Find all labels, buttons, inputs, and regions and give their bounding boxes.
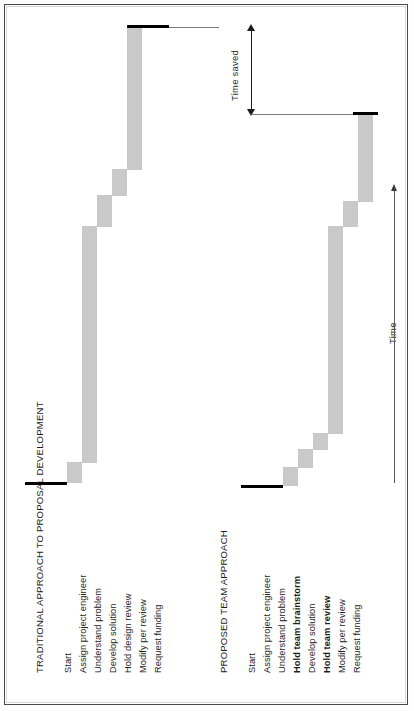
chart1-task-label-start: Start <box>64 653 73 673</box>
chart2-bar-modify-per-review <box>358 115 373 202</box>
chart1-task-label-develop-solution: Develop solution <box>109 603 118 673</box>
chart2-task-label-hold-team-brainstorm: Hold team brainstorm <box>293 576 302 673</box>
time-axis-label: Time <box>388 322 397 344</box>
chart2-task-label-hold-team-review: Hold team review <box>323 596 332 673</box>
time-axis-arrow-head <box>391 184 397 191</box>
chart2-bar-assign-engineer <box>283 467 298 486</box>
chart2-bar-develop-solution <box>328 226 343 434</box>
figure-canvas: TRADITIONAL APPROACH TO PROPOSAL DEVELOP… <box>0 0 414 711</box>
chart2-task-label-develop-solution: Develop solution <box>308 603 317 673</box>
chart1-baseline <box>25 482 67 485</box>
chart2-bar-hold-team-review <box>343 201 358 227</box>
chart1-extension-line <box>169 27 219 28</box>
chart2-task-label-assign-engineer: Assign project engineer <box>263 575 272 673</box>
chart1-task-label-hold-design-review: Hold design review <box>124 594 133 673</box>
chart2-end-cap <box>353 112 378 115</box>
chart1-task-label-request-funding: Request funding <box>154 605 163 673</box>
chart2-task-label-start: Start <box>248 653 257 673</box>
chart2-bar-hold-team-brainstorm <box>313 433 328 450</box>
chart1-task-label-understand-problem: Understand problem <box>94 588 103 673</box>
time-saved-label: Time saved <box>230 50 239 101</box>
chart1-title: TRADITIONAL APPROACH TO PROPOSAL DEVELOP… <box>35 401 45 673</box>
chart1-end-cap <box>127 25 169 28</box>
chart2-bar-understand-problem <box>298 449 313 468</box>
chart2-baseline <box>241 485 283 488</box>
chart1-task-label-assign-engineer: Assign project engineer <box>79 575 88 673</box>
chart1-bar-hold-design-review <box>112 169 127 196</box>
chart1-bar-assign-engineer <box>67 462 82 483</box>
chart1-task-label-modify-per-review: Modify per review <box>139 599 148 673</box>
time-saved-arrow-stem <box>251 30 252 114</box>
time-saved-arrow-head-top <box>247 24 255 31</box>
chart1-bar-understand-problem <box>82 226 97 463</box>
chart2-task-label-modify-per-review: Modify per review <box>338 599 347 673</box>
chart2-title: PROPOSED TEAM APPROACH <box>219 530 229 673</box>
chart2-extension-line <box>251 114 353 115</box>
chart1-bar-develop-solution <box>97 195 112 227</box>
chart2-task-label-understand-problem: Understand problem <box>278 588 287 673</box>
chart1-bar-modify-per-review <box>127 27 142 170</box>
time-axis-stem <box>394 191 395 483</box>
chart2-task-label-request-funding: Request funding <box>353 605 362 673</box>
figure-frame: TRADITIONAL APPROACH TO PROPOSAL DEVELOP… <box>4 4 408 705</box>
